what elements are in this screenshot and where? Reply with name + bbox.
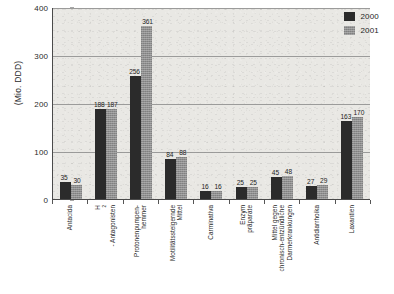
plot-area: 3530188187256361848816162525454827291631… <box>52 8 370 200</box>
legend-item-2000: 2000 <box>344 12 379 21</box>
bar-value-label: 256 <box>129 68 140 75</box>
x-axis-labels: AntacidaH2 - AntagonistenProtonenpumpen-… <box>52 205 370 293</box>
x-axis-label-6: Enzympräparate <box>229 205 264 293</box>
bar-value-label: 48 <box>285 168 292 175</box>
legend-item-2001: 2001 <box>344 26 379 35</box>
x-axis-label-2: H2 - Antagonisten <box>87 205 122 293</box>
x-tick-mark <box>264 200 265 204</box>
legend: 2000 2001 <box>341 10 382 37</box>
bar-value-label: 30 <box>74 177 81 184</box>
bar-group: 3530 <box>60 8 82 199</box>
bar-2000-6: 25 <box>236 187 247 199</box>
bar-value-label: 35 <box>61 174 68 181</box>
x-axis-label-text: MotilitätssteigerndeMittel <box>160 205 192 293</box>
bar-group: 188187 <box>95 8 117 199</box>
bar-2001-2: 187 <box>106 109 117 199</box>
bar-2000-2: 188 <box>95 109 106 199</box>
x-axis-label-text: Laxantien <box>336 205 368 293</box>
x-axis-label-text: Carminativa <box>195 205 227 293</box>
bar-value-label: 163 <box>341 113 352 120</box>
bar-value-label: 361 <box>142 18 153 25</box>
bar-2001-4: 88 <box>176 157 187 199</box>
x-tick-mark <box>299 200 300 204</box>
bar-value-label: 27 <box>307 178 314 185</box>
bar-value-label: 188 <box>94 101 105 108</box>
bar-group: 1616 <box>200 8 222 199</box>
y-tick-label: 300 <box>22 52 48 61</box>
bar-chart-figure: (Mio. DDD) 0100200300400 353018818725636… <box>0 0 394 294</box>
bar-2001-5: 16 <box>211 191 222 199</box>
y-tick-label: 200 <box>22 100 48 109</box>
bar-2000-7: 45 <box>271 177 282 199</box>
bar-group: 256361 <box>130 8 152 199</box>
x-tick-mark <box>335 200 336 204</box>
y-axis-ticks: 0100200300400 <box>22 8 48 200</box>
x-tick-mark <box>370 200 371 204</box>
bar-group: 8488 <box>165 8 187 199</box>
x-axis-label-7: Mittel gegenchronisch-entzündlicheDarmer… <box>264 205 299 293</box>
x-tick-mark <box>52 200 53 204</box>
bar-2001-3: 361 <box>141 26 152 199</box>
bar-group: 4548 <box>271 8 293 199</box>
bar-value-label: 29 <box>320 177 327 184</box>
bar-value-label: 25 <box>250 179 257 186</box>
bar-value-label: 16 <box>214 183 221 190</box>
bar-2001-7: 48 <box>282 176 293 199</box>
x-tick-mark <box>158 200 159 204</box>
bar-value-label: 16 <box>201 183 208 190</box>
bar-2001-1: 30 <box>71 185 82 199</box>
bar-value-label: 170 <box>354 109 365 116</box>
x-axis-label-3: Protonenpumpen-hemmer <box>123 205 158 293</box>
bar-2001-9: 170 <box>352 117 363 199</box>
x-tick-mark <box>87 200 88 204</box>
bar-value-label: 88 <box>179 149 186 156</box>
y-tick-label: 400 <box>22 4 48 13</box>
x-axis-label-8: Antidiarrhoika <box>299 205 334 293</box>
bar-2000-4: 84 <box>165 159 176 199</box>
x-axis-label-4: MotilitätssteigerndeMittel <box>158 205 193 293</box>
bar-2001-8: 29 <box>317 185 328 199</box>
x-axis-label-9: Laxantien <box>335 205 370 293</box>
bar-value-label: 25 <box>237 179 244 186</box>
legend-label-2000: 2000 <box>360 12 379 21</box>
bar-groups: 3530188187256361848816162525454827291631… <box>53 8 370 199</box>
x-tick-mark <box>229 200 230 204</box>
legend-swatch-icon-2001 <box>344 26 355 35</box>
bar-2000-9: 163 <box>341 121 352 199</box>
legend-swatch-icon-2000 <box>344 12 355 21</box>
x-tick-mark <box>193 200 194 204</box>
x-tick-mark <box>123 200 124 204</box>
x-axis-label-text: Protonenpumpen-hemmer <box>124 205 156 293</box>
bar-2000-3: 256 <box>130 76 141 199</box>
bar-value-label: 187 <box>107 101 118 108</box>
bar-group: 2525 <box>236 8 258 199</box>
x-axis-label-text: Antidiarrhoika <box>301 205 333 293</box>
bar-value-label: 84 <box>166 151 173 158</box>
y-tick-label: 100 <box>22 148 48 157</box>
x-axis-label-1: Antacida <box>52 205 87 293</box>
x-axis-label-5: Carminativa <box>193 205 228 293</box>
bar-2000-8: 27 <box>306 186 317 199</box>
bar-2001-6: 25 <box>247 187 258 199</box>
y-tick-label: 0 <box>22 196 48 205</box>
x-axis-label-text: Mittel gegenchronisch-entzündlicheDarmer… <box>266 205 298 293</box>
legend-label-2001: 2001 <box>360 26 379 35</box>
bar-2000-5: 16 <box>200 191 211 199</box>
bar-group: 2729 <box>306 8 328 199</box>
x-axis-label-text: H2 - Antagonisten <box>89 205 121 293</box>
x-axis-label-text: Antacida <box>54 205 86 293</box>
bar-value-label: 45 <box>272 169 279 176</box>
bar-2000-1: 35 <box>60 182 71 199</box>
x-axis-label-text: Enzympräparate <box>230 205 262 293</box>
